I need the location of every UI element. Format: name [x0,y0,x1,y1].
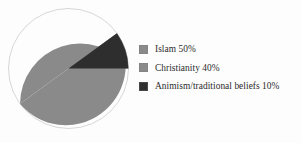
pie-chart-graphic [8,8,129,130]
legend-swatch-christianity [139,63,148,72]
pie-svg [8,8,129,130]
legend-label-christianity: Christianity 40% [155,63,220,73]
legend-item-islam: Islam 50% [139,40,297,59]
legend-item-animism: Animism/traditional beliefs 10% [139,77,297,96]
legend: Islam 50% Christianity 40% Animism/tradi… [139,40,297,96]
legend-item-christianity: Christianity 40% [139,59,297,78]
pie-chart-figure: Islam 50% Christianity 40% Animism/tradi… [0,0,301,143]
legend-label-islam: Islam 50% [155,44,196,54]
figure-caption [6,136,295,143]
legend-swatch-islam [139,45,148,54]
legend-swatch-animism [139,82,148,91]
legend-label-animism: Animism/traditional beliefs 10% [155,81,279,91]
